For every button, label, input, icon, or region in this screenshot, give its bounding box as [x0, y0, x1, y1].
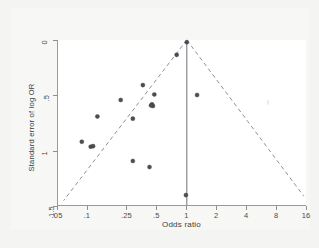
figure-canvas: .05.1.25.5124816 0.511.5 Odds ratio Stan…: [10, 8, 310, 230]
data-point: [175, 53, 179, 57]
data-point: [149, 103, 153, 107]
x-tick-label: .1: [84, 211, 91, 220]
y-tick-label: 1.5: [47, 206, 56, 217]
data-point: [195, 93, 199, 97]
y-tick-label: 0: [40, 40, 49, 44]
funnel-ci-line-left: [64, 40, 187, 201]
x-tick-label: 2: [214, 211, 218, 220]
y-tick-label: .5: [42, 95, 51, 102]
plot-inner: [58, 40, 306, 205]
funnel-plot-figure: .05.1.25.5124816 0.511.5 Odds ratio Stan…: [0, 0, 319, 248]
data-point: [95, 114, 99, 118]
x-tick-mark: [276, 206, 277, 210]
y-tick-label: 1: [40, 151, 49, 155]
x-tick-label: .5: [153, 211, 160, 220]
data-point: [131, 117, 135, 121]
data-point: [184, 193, 188, 197]
chart-graphics: [58, 40, 306, 205]
y-tick-mark: [53, 95, 57, 96]
data-point: [119, 98, 123, 102]
x-tick-mark: [87, 206, 88, 210]
x-tick-mark: [306, 206, 307, 210]
x-tick-label: 1: [184, 211, 188, 220]
x-tick-label: 4: [244, 211, 248, 220]
x-tick-label: 16: [302, 211, 311, 220]
plot-area: [57, 40, 306, 206]
data-point: [147, 165, 151, 169]
data-point: [152, 92, 156, 96]
x-tick-label: .25: [121, 211, 132, 220]
data-point: [131, 159, 135, 163]
data-point: [80, 140, 84, 144]
y-axis-title: Standard error of log OR: [27, 53, 36, 203]
x-tick-mark: [126, 206, 127, 210]
y-tick-mark: [53, 40, 57, 41]
funnel-ci-line-right: [187, 40, 304, 196]
y-tick-mark: [53, 151, 57, 152]
x-tick-mark: [57, 206, 58, 210]
scan-artifact-speck: [267, 100, 269, 105]
data-point: [141, 83, 145, 87]
x-tick-mark: [156, 206, 157, 210]
data-point: [185, 40, 189, 44]
data-point: [91, 144, 95, 148]
x-axis-title: Odds ratio: [57, 220, 306, 229]
x-tick-mark: [216, 206, 217, 210]
x-tick-mark: [186, 206, 187, 210]
x-tick-label: 8: [274, 211, 278, 220]
x-tick-mark: [246, 206, 247, 210]
